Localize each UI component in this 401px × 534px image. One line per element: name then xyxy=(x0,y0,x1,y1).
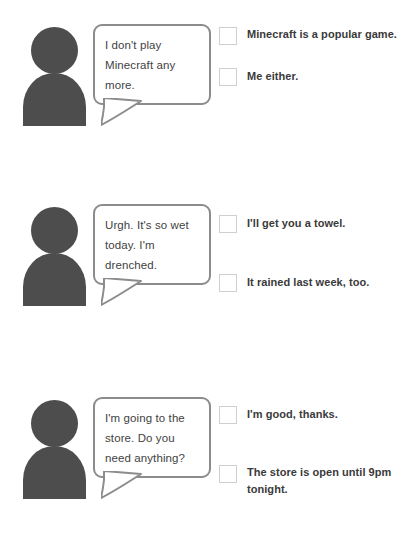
speech-bubble: I don't play Minecraft any more. xyxy=(93,24,211,105)
checkbox-icon[interactable] xyxy=(219,27,237,45)
exercise-row: Urgh. It's so wet today. I'm drenched. I… xyxy=(0,180,401,360)
checkbox-icon[interactable] xyxy=(219,68,237,86)
answer-options: I'm good, thanks. The store is open unti… xyxy=(219,405,397,518)
answer-option-label: Minecraft is a popular game. xyxy=(247,26,397,43)
person-avatar-icon xyxy=(23,27,86,126)
answer-option-label: Me either. xyxy=(247,68,298,85)
answer-option-label: The store is open until 9pm tonight. xyxy=(247,464,397,498)
speech-bubble-box: I'm going to the store. Do you need anyt… xyxy=(93,397,211,478)
person-avatar-icon xyxy=(23,207,86,306)
checkbox-icon[interactable] xyxy=(219,406,237,424)
exercise-row: I don't play Minecraft any more. Minecra… xyxy=(0,0,401,180)
avatar-body-icon xyxy=(23,73,86,126)
avatar-head-icon xyxy=(31,207,78,254)
answer-option-label: It rained last week, too. xyxy=(247,274,369,291)
speech-bubble-tail-icon xyxy=(101,471,159,501)
speech-bubble-box: I don't play Minecraft any more. xyxy=(93,24,211,105)
answer-option[interactable]: It rained last week, too. xyxy=(219,273,397,292)
speech-bubble: Urgh. It's so wet today. I'm drenched. xyxy=(93,204,211,285)
speech-bubble-text: I don't play Minecraft any more. xyxy=(105,35,200,95)
conversation-worksheet: I don't play Minecraft any more. Minecra… xyxy=(0,0,401,534)
answer-option[interactable]: I'm good, thanks. xyxy=(219,405,397,424)
avatar-head-icon xyxy=(31,27,78,74)
answer-option[interactable]: Minecraft is a popular game. xyxy=(219,26,397,45)
speech-bubble: I'm going to the store. Do you need anyt… xyxy=(93,397,211,478)
checkbox-icon[interactable] xyxy=(219,274,237,292)
person-avatar-icon xyxy=(23,400,86,499)
answer-option-label: I'm good, thanks. xyxy=(247,406,338,423)
speech-bubble-box: Urgh. It's so wet today. I'm drenched. xyxy=(93,204,211,285)
answer-option-label: I'll get you a towel. xyxy=(247,215,345,232)
exercise-row: I'm going to the store. Do you need anyt… xyxy=(0,373,401,534)
checkbox-icon[interactable] xyxy=(219,465,237,483)
answer-option[interactable]: The store is open until 9pm tonight. xyxy=(219,464,397,498)
speech-bubble-tail-icon xyxy=(101,98,159,128)
avatar-head-icon xyxy=(31,400,78,447)
avatar-body-icon xyxy=(23,446,86,499)
checkbox-icon[interactable] xyxy=(219,215,237,233)
avatar-body-icon xyxy=(23,253,86,306)
speech-bubble-tail-icon xyxy=(101,278,159,308)
speech-bubble-text: I'm going to the store. Do you need anyt… xyxy=(105,408,200,468)
answer-option[interactable]: Me either. xyxy=(219,67,397,86)
answer-options: Minecraft is a popular game. Me either. xyxy=(219,26,397,106)
answer-options: I'll get you a towel. It rained last wee… xyxy=(219,214,397,312)
speech-bubble-text: Urgh. It's so wet today. I'm drenched. xyxy=(105,215,200,275)
answer-option[interactable]: I'll get you a towel. xyxy=(219,214,397,233)
